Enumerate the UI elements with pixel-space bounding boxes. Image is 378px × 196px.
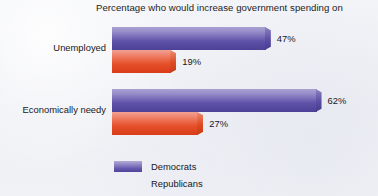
bar-end-cap [316, 89, 322, 112]
bar-democrats-unemployed [112, 27, 271, 50]
bar-republicans-economically-needy [112, 112, 203, 135]
bar-body [112, 27, 266, 50]
value-label-democrats-unemployed: 47% [277, 33, 296, 44]
value-label-democrats-economically-needy: 62% [328, 95, 347, 106]
bar-end-cap [170, 50, 176, 73]
chart-legend: Democrats Republicans [114, 158, 203, 192]
category-label-economically-needy: Economically needy [23, 104, 106, 115]
legend-label-democrats: Democrats [151, 161, 196, 172]
legend-swatch-democrats [114, 161, 142, 172]
legend-swatch-republicans [114, 178, 142, 189]
bar-democrats-economically-needy [112, 89, 322, 112]
legend-item-republicans: Republicans [114, 175, 203, 192]
bar-end-cap [197, 112, 203, 135]
bar-body [112, 50, 171, 73]
legend-label-republicans: Republicans [151, 178, 203, 189]
bar-body [112, 89, 317, 112]
bar-end-cap [265, 27, 271, 50]
bar-republicans-unemployed [112, 50, 176, 73]
category-label-unemployed: Unemployed [53, 42, 106, 53]
value-label-republicans-unemployed: 19% [182, 56, 201, 67]
value-label-republicans-economically-needy: 27% [209, 118, 228, 129]
legend-item-democrats: Democrats [114, 158, 203, 175]
bar-body [112, 112, 198, 135]
